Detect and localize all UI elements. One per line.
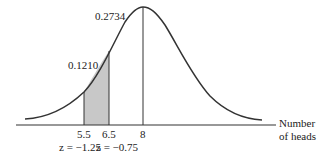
z-label-6-5: z = −0.75 — [96, 141, 138, 153]
peak-value-label: 0.2734 — [95, 10, 125, 22]
tick-label-5-5: 5.5 — [77, 128, 91, 140]
x-axis-label-line1: Number — [279, 117, 315, 129]
x-axis-label-line2: of heads — [279, 130, 316, 142]
z-label-5-5: z = −1.25 — [59, 141, 101, 153]
shade-value-label: 0.1210 — [68, 59, 98, 71]
tick-label-6-5: 6.5 — [102, 128, 116, 140]
tick-label-8: 8 — [140, 128, 146, 140]
